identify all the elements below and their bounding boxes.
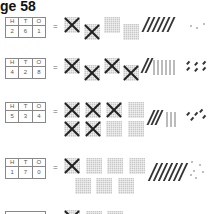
hundred-block-icon — [107, 211, 123, 214]
place-value-table — [5, 211, 46, 214]
hundred-block-crossed-icon — [64, 210, 80, 214]
exercise-row-5 — [0, 0, 213, 214]
hundred-block-icon — [86, 211, 102, 214]
